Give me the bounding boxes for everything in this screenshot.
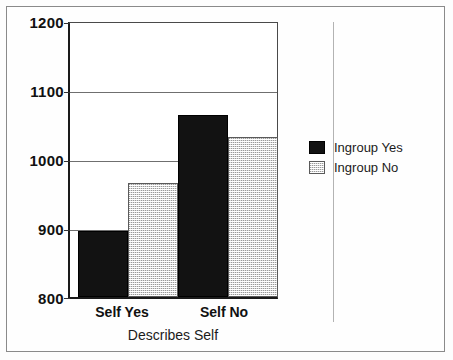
legend-swatch-icon-ingroup-yes <box>309 141 325 154</box>
y-tickmark-1200 <box>64 23 70 24</box>
y-tickmark-1000 <box>64 161 70 162</box>
y-tickmark-900 <box>64 230 70 231</box>
y-axis-labels: 1200 1100 1000 900 800 <box>2 22 64 299</box>
x-axis-title: Describes Self <box>68 327 278 343</box>
gridline-1100 <box>70 92 277 93</box>
x-tick-label-self-no: Self No <box>170 304 278 320</box>
legend-item-ingroup-yes: Ingroup Yes <box>309 138 439 156</box>
legend-label-ingroup-no: Ingroup No <box>334 160 398 175</box>
legend: Ingroup Yes Ingroup No <box>309 138 439 178</box>
y-tick-label-1200: 1200 <box>6 15 64 30</box>
bar-self-no-ingroup-no <box>228 137 278 297</box>
legend-swatch-icon-ingroup-no <box>309 161 325 174</box>
bar-self-yes-ingroup-yes <box>78 231 128 297</box>
y-tick-label-900: 900 <box>6 222 64 237</box>
y-tick-label-1100: 1100 <box>6 84 64 99</box>
bar-self-yes-ingroup-no <box>128 183 178 297</box>
y-tick-label-1000: 1000 <box>6 153 64 168</box>
y-tickmark-1100 <box>64 92 70 93</box>
chart-figure: 1200 1100 1000 900 800 Self Yes Self No … <box>0 0 453 360</box>
legend-label-ingroup-yes: Ingroup Yes <box>334 140 403 155</box>
x-axis-labels: Self Yes Self No <box>68 304 278 326</box>
bar-self-no-ingroup-yes <box>178 115 228 297</box>
legend-item-ingroup-no: Ingroup No <box>309 158 439 176</box>
y-tick-label-800: 800 <box>6 291 64 306</box>
y-tickmark-800 <box>64 298 70 299</box>
x-tick-label-self-yes: Self Yes <box>68 304 176 320</box>
plot-area <box>68 22 278 299</box>
